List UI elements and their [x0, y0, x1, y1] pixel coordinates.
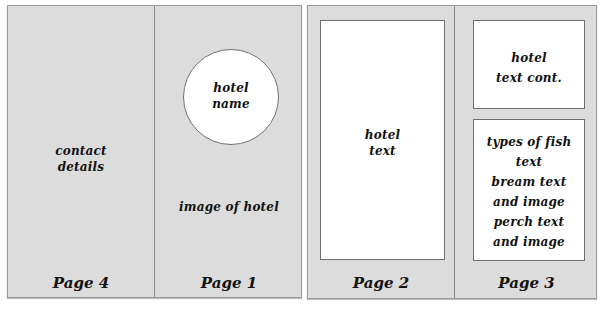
hotel-text-cont-box: hotel text cont. [473, 20, 585, 109]
page-1-label: Page 1 [155, 274, 303, 292]
outer-spread: contact details Page 4 hotel name image … [7, 5, 302, 298]
hotel-name-text: hotel name [184, 80, 278, 112]
hotel-text-cont: hotel text cont. [474, 48, 584, 88]
page-3-label: Page 3 [455, 274, 598, 292]
page-2-label: Page 2 [308, 274, 454, 292]
inner-spread: hotel text Page 2 hotel text cont. types… [307, 5, 597, 299]
contact-details-text: contact details [8, 143, 154, 175]
hotel-text: hotel text [321, 127, 444, 159]
fish-types-box: types of fish text bream text and image … [473, 119, 585, 261]
hotel-text-box: hotel text [320, 20, 445, 260]
fish-types-text: types of fish text bream text and image … [474, 132, 584, 252]
fold-line [454, 6, 455, 298]
page-4-label: Page 4 [8, 274, 154, 292]
hotel-name-circle: hotel name [183, 49, 279, 145]
image-of-hotel-text: image of hotel [155, 199, 303, 215]
fold-line [154, 6, 155, 297]
